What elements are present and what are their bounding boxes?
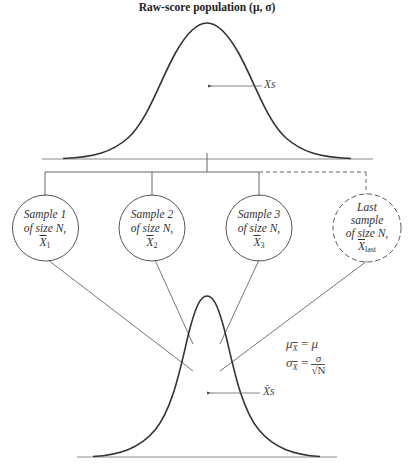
sampling-distribution-curve: [77, 296, 337, 457]
last-sample-title-1: Last: [334, 201, 400, 214]
last-sample-size: of size N,: [334, 227, 400, 240]
sample-1-title: Sample 1: [12, 207, 78, 221]
sample-2-text: Sample 2 of size N, X2: [119, 207, 185, 253]
sample-3-text: Sample 3 of size N, X3: [226, 207, 292, 253]
diagram-title: Raw-score population (μ, σ): [0, 0, 408, 14]
standard-error-formula: σX = σ √N: [286, 353, 325, 376]
sample-2-mean: X2: [119, 235, 185, 253]
sample-1-size: of size N,: [12, 221, 78, 235]
sample-3-mean: X3: [226, 235, 292, 253]
sample-2-size: of size N,: [119, 221, 185, 235]
sampling-distribution-diagram: Raw-score population (μ, σ) Xs Sample 1 …: [0, 0, 408, 464]
standard-error-fraction: σ √N: [311, 353, 325, 376]
last-sample-mean: Xlast: [334, 240, 400, 256]
population-bell-curve: [63, 23, 351, 159]
sample-1-mean: X1: [12, 235, 78, 253]
last-sample-title-2: sample: [334, 214, 400, 227]
sample-3-title: Sample 3: [226, 207, 292, 221]
sample-1-text: Sample 1 of size N, X1: [12, 207, 78, 253]
population-scores-label: Xs: [264, 78, 276, 90]
sample-means-label-text: X̄s: [263, 385, 275, 397]
sample-3-size: of size N,: [226, 221, 292, 235]
mean-formula: μX = μ: [286, 336, 318, 353]
population-label-text: Xs: [264, 78, 276, 90]
sample-means-label: X̄s: [263, 385, 275, 397]
last-sample-text: Last sample of size N, Xlast: [334, 201, 400, 256]
sample-2-title: Sample 2: [119, 207, 185, 221]
population-curve: [42, 23, 373, 159]
